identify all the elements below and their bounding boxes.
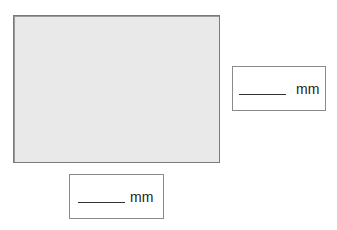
height-answer-blank[interactable]	[239, 94, 286, 95]
width-unit-label: mm	[130, 189, 153, 205]
height-answer-box[interactable]: mm	[232, 66, 326, 111]
width-answer-box[interactable]: mm	[69, 174, 164, 219]
height-unit-label: mm	[296, 81, 319, 97]
width-answer-blank[interactable]	[78, 202, 125, 203]
measured-rectangle	[13, 15, 220, 163]
